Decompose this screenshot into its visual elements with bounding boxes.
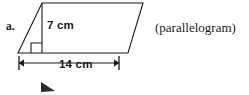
height-measurement-label: 7 cm	[47, 20, 74, 32]
geometry-figure-a: a. 7 cm 14 cm (parallelogram)	[0, 0, 249, 95]
item-letter-label: a.	[6, 21, 15, 33]
base-measurement-label: 14 cm	[59, 59, 93, 71]
shape-name-label: (parallelogram)	[155, 21, 236, 34]
figure-text-layer: a. 7 cm 14 cm (parallelogram)	[0, 0, 249, 95]
